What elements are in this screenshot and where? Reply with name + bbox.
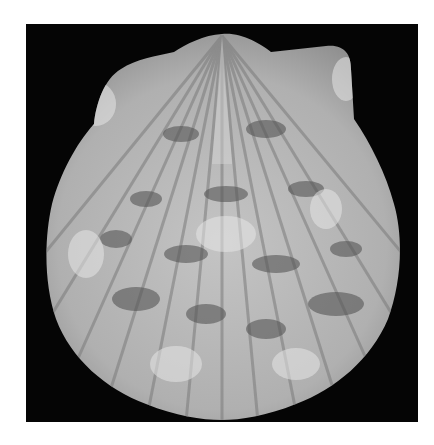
- scallop-shell-illustration: [26, 24, 418, 422]
- shell-photo: [26, 24, 418, 422]
